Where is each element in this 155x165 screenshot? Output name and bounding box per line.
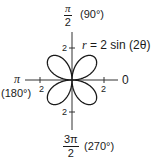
label-180-deg: (180°) <box>1 88 31 99</box>
equation: r = 2 sin (2θ) <box>82 39 150 51</box>
top-num: π <box>64 3 72 16</box>
tick-label-bottom: 2 <box>62 108 67 117</box>
label-270: 3π 2 <box>63 134 79 159</box>
top-den: 2 <box>65 16 71 28</box>
label-0: 0 <box>122 74 129 86</box>
tick-label-right: 2 <box>101 85 106 94</box>
bottom-num: 3π <box>63 134 79 147</box>
label-270-deg: (270°) <box>84 141 114 152</box>
eq-lhs: r <box>82 38 87 52</box>
label-90: π 2 <box>64 3 72 28</box>
bottom-den: 2 <box>68 147 74 159</box>
bottom-num-text: 3π <box>64 133 78 145</box>
label-180: π <box>14 73 20 85</box>
eq-rhs: = 2 sin (2θ) <box>90 38 150 52</box>
tick-label-left: 2 <box>39 85 44 94</box>
tick-label-top: 2 <box>62 44 67 53</box>
label-90-deg: (90°) <box>80 9 104 20</box>
